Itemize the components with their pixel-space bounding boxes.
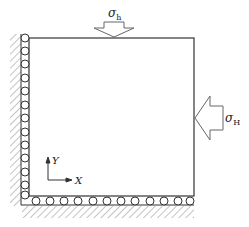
diagram-canvas: σh σH Y X bbox=[0, 0, 249, 227]
axis-x-label: X bbox=[74, 175, 83, 186]
bottom-rollers bbox=[32, 197, 194, 205]
left-wall-ground bbox=[10, 34, 21, 206]
left-rollers bbox=[21, 34, 29, 199]
axis-indicator bbox=[46, 157, 72, 182]
right-stress-label: σH bbox=[225, 111, 240, 127]
domain-box bbox=[29, 38, 194, 196]
top-stress-label: σh bbox=[108, 6, 121, 22]
bottom-ground bbox=[21, 205, 194, 218]
axis-y-label: Y bbox=[52, 155, 60, 166]
top-stress-arrow bbox=[94, 22, 134, 37]
right-stress-arrow bbox=[195, 96, 223, 140]
